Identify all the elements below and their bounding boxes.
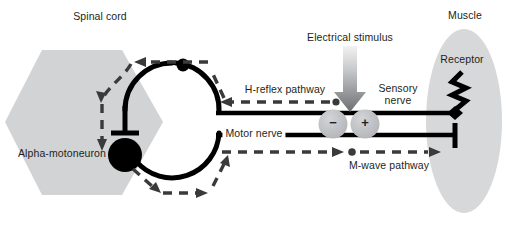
sensory-nerve-label: Sensory nerve — [378, 82, 417, 106]
anode-polarity-label: + — [361, 116, 369, 131]
h-reflex-dot-marker — [332, 98, 339, 105]
h-reflex-pathway-label: H-reflex pathway — [245, 84, 325, 96]
motor-nerve-label: Motor nerve — [222, 128, 285, 140]
receptor-label: Receptor — [440, 54, 483, 66]
alpha-motoneuron-soma — [108, 138, 142, 172]
alpha-motoneuron-label: Alpha-motoneuron — [18, 148, 106, 160]
sensory-nerve-label-line2: nerve — [378, 94, 417, 106]
h-reflex-arrowhead-left-lower — [220, 97, 232, 107]
h-reflex-arrowhead-top — [134, 57, 146, 67]
spinal-cord-label: Spinal cord — [73, 11, 127, 23]
muscle-label: Muscle — [448, 10, 482, 22]
m-wave-dot-marker — [348, 148, 356, 156]
m-wave-dashed-riser — [213, 164, 224, 186]
sensory-nerve-label-line1: Sensory — [378, 82, 417, 94]
m-wave-pathway-label: M-wave pathway — [349, 160, 429, 172]
diagram-canvas — [0, 0, 514, 228]
m-wave-arrowhead-lower-left — [196, 188, 208, 198]
h-reflex-m-wave-diagram: Spinal cord Alpha-motoneuron H-reflex pa… — [0, 0, 514, 228]
m-wave-arrowhead-mid — [332, 147, 344, 157]
cathode-polarity-label: − — [329, 116, 337, 131]
electrical-stimulus-label: Electrical stimulus — [307, 32, 393, 44]
